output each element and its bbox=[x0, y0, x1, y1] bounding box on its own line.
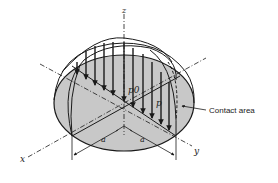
pressure-label: p bbox=[156, 98, 162, 108]
semi-axis-label-left: a bbox=[101, 135, 106, 144]
x-axis-label: x bbox=[20, 154, 25, 164]
z-axis-label: z bbox=[121, 6, 127, 15]
peak-pressure-label: p0 bbox=[128, 85, 140, 95]
contact-area-label: Contact area bbox=[209, 106, 255, 115]
contact-pressure-diagram: z x y p0 p a a Contact area bbox=[0, 0, 278, 183]
y-axis-label: y bbox=[193, 146, 200, 156]
semi-axis-label-right: a bbox=[140, 135, 145, 144]
